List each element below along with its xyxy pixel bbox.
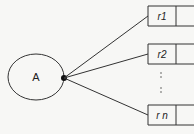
record-r1: r1 — [148, 6, 194, 26]
diagram-canvas: A r1 r2 r n — [0, 0, 194, 134]
edge-r2 — [64, 54, 148, 78]
record-rn: r n — [148, 105, 194, 125]
edge-rn — [64, 78, 148, 115]
record-r2: r2 — [148, 44, 194, 64]
record-label: r2 — [158, 49, 167, 60]
record-label: r n — [156, 110, 168, 121]
source-node: A — [8, 54, 64, 100]
vertical-ellipsis — [160, 72, 161, 92]
edges — [64, 16, 148, 115]
edge-r1 — [64, 16, 148, 78]
source-node-label: A — [32, 71, 40, 83]
record-label: r1 — [158, 11, 167, 22]
